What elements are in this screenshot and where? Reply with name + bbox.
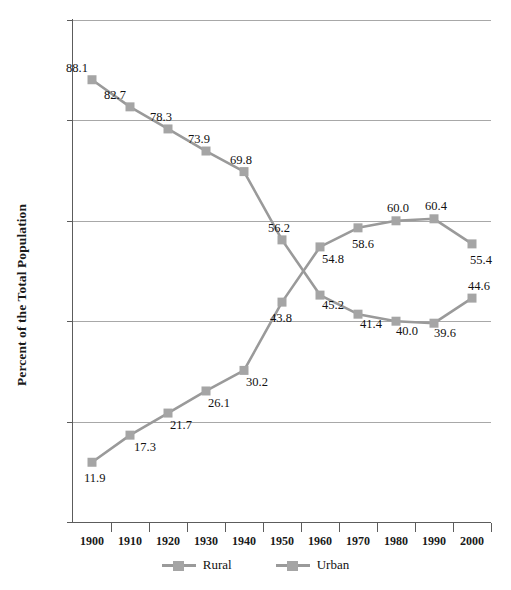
legend-square-marker-icon — [173, 561, 184, 571]
data-point-marker — [126, 431, 135, 440]
data-point-marker — [430, 214, 439, 223]
legend-label: Urban — [317, 557, 350, 573]
data-label: 73.9 — [188, 133, 210, 146]
data-label: 82.7 — [104, 89, 126, 102]
data-label: 78.3 — [150, 111, 172, 124]
data-label: 41.4 — [360, 318, 382, 331]
data-point-marker — [468, 294, 477, 303]
data-label: 60.4 — [425, 200, 447, 213]
data-point-marker — [316, 242, 325, 251]
data-label: 30.2 — [246, 376, 268, 389]
data-point-marker — [202, 147, 211, 156]
line-chart: Percent of the Total Population 02040608… — [0, 0, 511, 590]
series-layer — [0, 0, 511, 590]
data-point-marker — [202, 386, 211, 395]
data-label: 88.1 — [66, 62, 88, 75]
data-label: 69.8 — [230, 154, 252, 167]
data-point-marker — [354, 223, 363, 232]
legend-label: Rural — [203, 557, 232, 573]
data-point-marker — [126, 102, 135, 111]
data-label: 44.6 — [468, 280, 490, 293]
series-line-urban — [92, 219, 472, 462]
data-label: 21.7 — [170, 419, 192, 432]
data-point-marker — [278, 298, 287, 307]
data-label: 56.2 — [268, 222, 290, 235]
data-label: 58.6 — [352, 238, 374, 251]
series-line-rural — [92, 80, 472, 323]
data-point-marker — [88, 75, 97, 84]
data-label: 26.1 — [208, 397, 230, 410]
data-label: 55.4 — [470, 254, 492, 267]
data-label: 39.6 — [434, 327, 456, 340]
data-label: 54.8 — [322, 253, 344, 266]
legend-key-icon — [162, 559, 196, 571]
data-point-marker — [240, 366, 249, 375]
data-label: 45.2 — [322, 299, 344, 312]
data-label: 40.0 — [396, 325, 418, 338]
chart-legend: RuralUrban — [0, 557, 511, 573]
legend-item-rural[interactable]: Rural — [162, 557, 232, 573]
data-point-marker — [468, 239, 477, 248]
legend-key-icon — [276, 559, 310, 571]
data-point-marker — [278, 235, 287, 244]
legend-item-urban[interactable]: Urban — [276, 557, 350, 573]
data-label: 43.8 — [270, 312, 292, 325]
data-point-marker — [164, 409, 173, 418]
data-label: 17.3 — [134, 441, 156, 454]
data-point-marker — [392, 216, 401, 225]
data-point-marker — [164, 124, 173, 133]
legend-square-marker-icon — [287, 561, 298, 571]
data-point-marker — [240, 167, 249, 176]
data-label: 60.0 — [387, 202, 409, 215]
data-point-marker — [88, 458, 97, 467]
data-label: 11.9 — [84, 472, 105, 485]
